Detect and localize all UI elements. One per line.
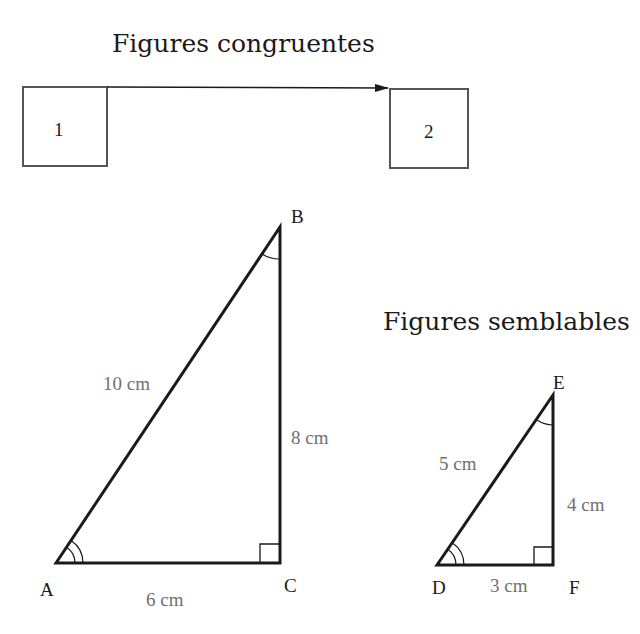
diagram-canvas: Figures congruentes 1 2 B A C 10 cm 8 cm… — [0, 0, 640, 634]
side-df-length: 3 cm — [490, 575, 528, 596]
side-bc-length: 8 cm — [291, 427, 329, 448]
side-ac-length: 6 cm — [146, 589, 184, 610]
congruent-title: Figures congruentes — [112, 29, 375, 58]
angle-arc-b — [262, 254, 280, 259]
right-angle-mark-f — [534, 547, 553, 565]
side-ef-length: 4 cm — [567, 494, 605, 515]
triangle-abc — [56, 227, 280, 563]
angle-arc-d-inner — [448, 549, 456, 565]
box-2-label: 2 — [424, 121, 434, 142]
right-angle-mark-c — [260, 544, 280, 563]
translation-arrow — [107, 87, 388, 88]
angle-arc-a-inner — [67, 547, 76, 563]
angle-arc-e — [537, 420, 553, 425]
congruent-box-2: 2 — [390, 89, 468, 168]
vertex-b-label: B — [291, 206, 304, 227]
triangle-def — [437, 395, 553, 565]
vertex-f-label: F — [569, 577, 580, 598]
vertex-a-label: A — [40, 579, 54, 600]
vertex-c-label: C — [284, 575, 297, 596]
congruent-box-1: 1 — [23, 87, 107, 166]
box-1-label: 1 — [54, 119, 64, 140]
vertex-e-label: E — [553, 372, 565, 393]
side-de-length: 5 cm — [439, 453, 477, 474]
angle-arc-a-outer — [71, 541, 83, 564]
angle-arc-d-outer — [452, 543, 464, 565]
side-ab-length: 10 cm — [103, 373, 150, 394]
vertex-d-label: D — [432, 577, 446, 598]
similar-title: Figures semblables — [383, 307, 630, 336]
